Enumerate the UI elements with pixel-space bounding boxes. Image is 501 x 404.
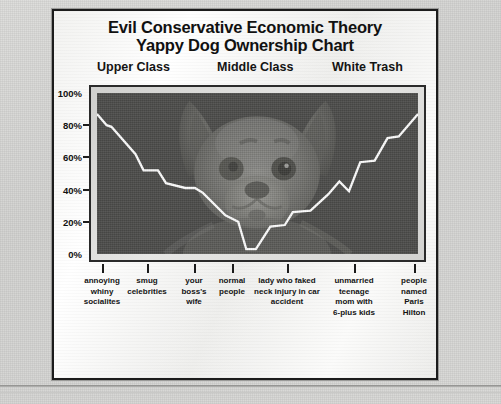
y-axis-tick-label: 60% xyxy=(63,152,82,163)
class-header-middle: Middle Class xyxy=(217,60,293,74)
plot-area xyxy=(97,93,418,254)
x-axis-category-label: lady who fakedneck injury in caraccident xyxy=(247,276,327,308)
y-axis-tick-label: 80% xyxy=(63,120,82,131)
x-axis-tick-mark xyxy=(147,264,149,273)
chart-title-line-2: Yappy Dog Ownership Chart xyxy=(54,37,436,55)
page-divider-rule xyxy=(0,385,501,387)
y-axis-tick-label: 40% xyxy=(63,184,82,195)
class-header-row: Upper Class Middle Class White Trash xyxy=(54,60,436,78)
chart-title: Evil Conservative Economic Theory Yappy … xyxy=(54,19,436,54)
page-divider-rule-secondary xyxy=(0,392,501,393)
x-axis-tick-mark xyxy=(287,264,289,273)
plot-frame xyxy=(89,85,426,262)
x-axis-category-label: unmarriedteenagemom with6-plus kids xyxy=(323,276,385,318)
class-header-upper: Upper Class xyxy=(97,60,170,74)
x-axis-tick-mark xyxy=(194,264,196,273)
data-line xyxy=(97,93,418,254)
y-axis-tick-label: 100% xyxy=(58,88,82,99)
x-axis-category-label: smugcelebrities xyxy=(116,276,178,297)
y-axis: 100%80%60%40%20%0% xyxy=(54,85,89,262)
x-axis xyxy=(89,264,426,274)
x-axis-tick-mark xyxy=(232,264,234,273)
x-axis-tick-mark xyxy=(354,264,356,273)
y-axis-tick-label: 0% xyxy=(68,249,82,260)
x-axis-category-label: peoplenamedParisHilton xyxy=(388,276,438,318)
x-axis-tick-mark xyxy=(414,264,416,273)
chart-card: Evil Conservative Economic Theory Yappy … xyxy=(52,9,438,380)
y-axis-tick-label: 20% xyxy=(63,216,82,227)
x-axis-tick-mark xyxy=(102,264,104,273)
x-axis-labels: annoyingwhinysocialitessmugcelebritiesyo… xyxy=(72,276,438,356)
class-header-white-trash: White Trash xyxy=(332,60,403,74)
chart-title-line-1: Evil Conservative Economic Theory xyxy=(54,19,436,37)
